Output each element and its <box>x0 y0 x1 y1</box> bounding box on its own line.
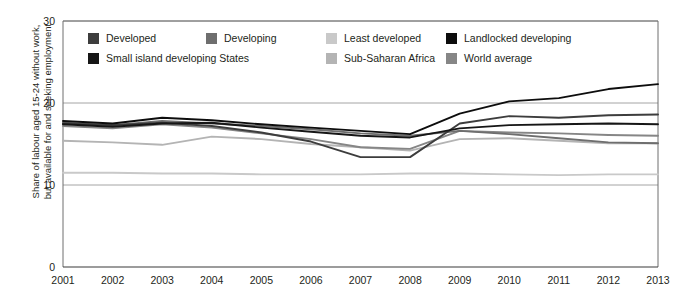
legend-item-label: Sub-Saharan Africa <box>344 52 435 64</box>
legend-swatch-icon <box>88 53 99 64</box>
series-line-least-developed <box>63 173 658 175</box>
legend-item-world-average[interactable]: World average <box>446 52 532 64</box>
legend-row-1: DevelopedDevelopingLeast developedLandlo… <box>88 28 648 48</box>
legend-item-label: Developing <box>224 32 277 44</box>
legend-item-label: World average <box>464 52 532 64</box>
legend-swatch-icon <box>446 53 457 64</box>
legend-item-developed[interactable]: Developed <box>88 32 156 44</box>
legend-swatch-icon <box>88 33 99 44</box>
legend-item-label: Developed <box>106 32 156 44</box>
legend-item-small-island-developing-states[interactable]: Small island developing States <box>88 52 249 64</box>
legend-item-label: Least developed <box>344 32 421 44</box>
legend-item-developing[interactable]: Developing <box>206 32 277 44</box>
legend-item-least-developed[interactable]: Least developed <box>326 32 421 44</box>
legend-item-landlocked-developing[interactable]: Landlocked developing <box>446 32 571 44</box>
legend-swatch-icon <box>446 33 457 44</box>
series-line-landlocked-developing <box>63 84 658 134</box>
legend-swatch-icon <box>326 53 337 64</box>
legend-swatch-icon <box>326 33 337 44</box>
legend-swatch-icon <box>206 33 217 44</box>
chart-legend: DevelopedDevelopingLeast developedLandlo… <box>88 28 648 68</box>
legend-row-2: Small island developing StatesSub-Sahara… <box>88 48 648 68</box>
legend-item-label: Small island developing States <box>106 52 249 64</box>
legend-item-label: Landlocked developing <box>464 32 571 44</box>
legend-item-sub-saharan-africa[interactable]: Sub-Saharan Africa <box>326 52 435 64</box>
